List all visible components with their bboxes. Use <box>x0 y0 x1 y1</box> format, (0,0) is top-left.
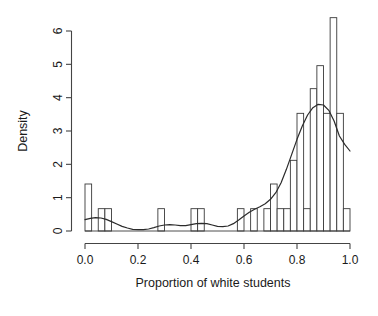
x-tick-label-0.6: 0.6 <box>236 253 253 267</box>
histogram-bar <box>290 160 297 231</box>
y-axis-ticks <box>66 31 72 231</box>
x-tick-label-0.4: 0.4 <box>183 253 200 267</box>
histogram-bar <box>191 209 198 231</box>
y-tick-label-2: 2 <box>51 161 65 168</box>
histogram-bar <box>284 209 291 231</box>
histogram-bar <box>85 184 92 231</box>
histogram-bar <box>251 209 258 231</box>
histogram-bars <box>85 18 350 231</box>
y-axis-tick-labels: 0123456 <box>51 27 65 234</box>
y-tick-label-0: 0 <box>51 227 65 234</box>
x-axis-tick-labels: 0.00.20.40.60.81.0 <box>77 253 359 267</box>
x-tick-label-1.0: 1.0 <box>342 253 359 267</box>
x-tick-label-0.2: 0.2 <box>130 253 147 267</box>
histogram-bar <box>264 209 271 231</box>
y-axis-title: Density <box>16 109 30 151</box>
x-axis-ticks <box>85 244 350 250</box>
histogram-bar <box>304 209 311 231</box>
y-tick-label-1: 1 <box>51 194 65 201</box>
histogram-bar <box>324 113 331 231</box>
histogram-bar <box>277 209 284 231</box>
histogram-bar <box>343 209 350 231</box>
y-tick-label-3: 3 <box>51 127 65 134</box>
y-tick-label-5: 5 <box>51 61 65 68</box>
y-tick-label-6: 6 <box>51 27 65 34</box>
plot-area: 0123456 0.00.20.40.60.81.0 Density Propo… <box>0 0 378 316</box>
density-histogram-chart: 0123456 0.00.20.40.60.81.0 Density Propo… <box>0 0 378 316</box>
histogram-bar <box>158 209 165 231</box>
histogram-bar <box>317 66 324 231</box>
y-tick-label-4: 4 <box>51 94 65 101</box>
histogram-bar <box>98 209 105 231</box>
x-tick-label-0.8: 0.8 <box>289 253 306 267</box>
x-axis-title: Proportion of white students <box>136 276 291 290</box>
histogram-bar <box>198 209 205 231</box>
x-tick-label-0.0: 0.0 <box>77 253 94 267</box>
